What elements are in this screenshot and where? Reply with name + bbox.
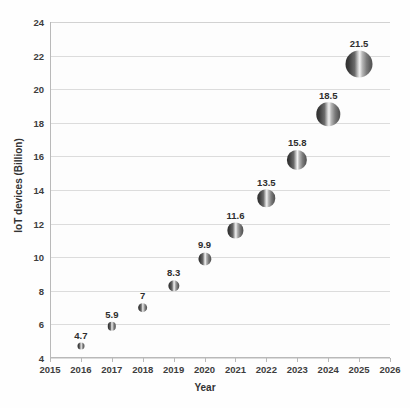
x-tick-mark-2025 (359, 358, 360, 362)
gridline-y-6 (51, 324, 390, 325)
x-tick-mark-2016 (81, 358, 82, 362)
data-label-2021: 11.6 (226, 210, 244, 221)
x-tick-mark-2022 (266, 358, 267, 362)
x-tick-mark-2021 (235, 358, 236, 362)
data-label-2016: 4.7 (74, 330, 87, 341)
gridline-y-18 (51, 123, 390, 124)
x-tick-label-2026: 2026 (370, 364, 410, 375)
x-tick-mark-2023 (297, 358, 298, 362)
data-label-2020: 9.9 (198, 239, 211, 250)
data-label-2018: 7 (140, 290, 145, 301)
gridline-y-10 (51, 257, 390, 258)
gridline-y-16 (51, 156, 390, 157)
data-label-2019: 8.3 (167, 267, 180, 278)
y-tick-label-6: 6 (0, 319, 44, 330)
x-tick-mark-2026 (390, 358, 391, 362)
bubble-chart: 2015201620172018201920202021202220232024… (0, 0, 410, 408)
y-tick-label-22: 22 (0, 50, 44, 61)
y-tick-label-24: 24 (0, 17, 44, 28)
x-tick-mark-2017 (112, 358, 113, 362)
gridline-y-24 (51, 22, 390, 23)
gridline-y-22 (51, 56, 390, 57)
x-tick-mark-2015 (50, 358, 51, 362)
data-label-2024: 18.5 (319, 90, 338, 101)
x-tick-mark-2019 (174, 358, 175, 362)
x-tick-mark-2018 (143, 358, 144, 362)
y-tick-label-10: 10 (0, 252, 44, 263)
y-tick-label-12: 12 (0, 218, 44, 229)
data-point-2025 (346, 51, 373, 78)
data-label-2022: 13.5 (257, 177, 276, 188)
x-axis-title: Year (0, 382, 410, 393)
y-tick-label-4: 4 (0, 353, 44, 364)
data-point-2016 (77, 343, 84, 350)
data-label-2023: 15.8 (288, 137, 307, 148)
plot-area (50, 22, 390, 358)
gridline-y-20 (51, 89, 390, 90)
data-label-2025: 21.5 (350, 38, 369, 49)
y-tick-label-20: 20 (0, 84, 44, 95)
y-tick-label-8: 8 (0, 285, 44, 296)
x-tick-mark-2020 (205, 358, 206, 362)
gridline-y-12 (51, 224, 390, 225)
y-tick-label-16: 16 (0, 151, 44, 162)
data-label-2017: 5.9 (105, 309, 118, 320)
data-point-2018 (138, 303, 148, 313)
x-tick-mark-2024 (328, 358, 329, 362)
gridline-y-14 (51, 190, 390, 191)
y-tick-label-14: 14 (0, 185, 44, 196)
gridline-y-8 (51, 291, 390, 292)
y-tick-label-18: 18 (0, 117, 44, 128)
